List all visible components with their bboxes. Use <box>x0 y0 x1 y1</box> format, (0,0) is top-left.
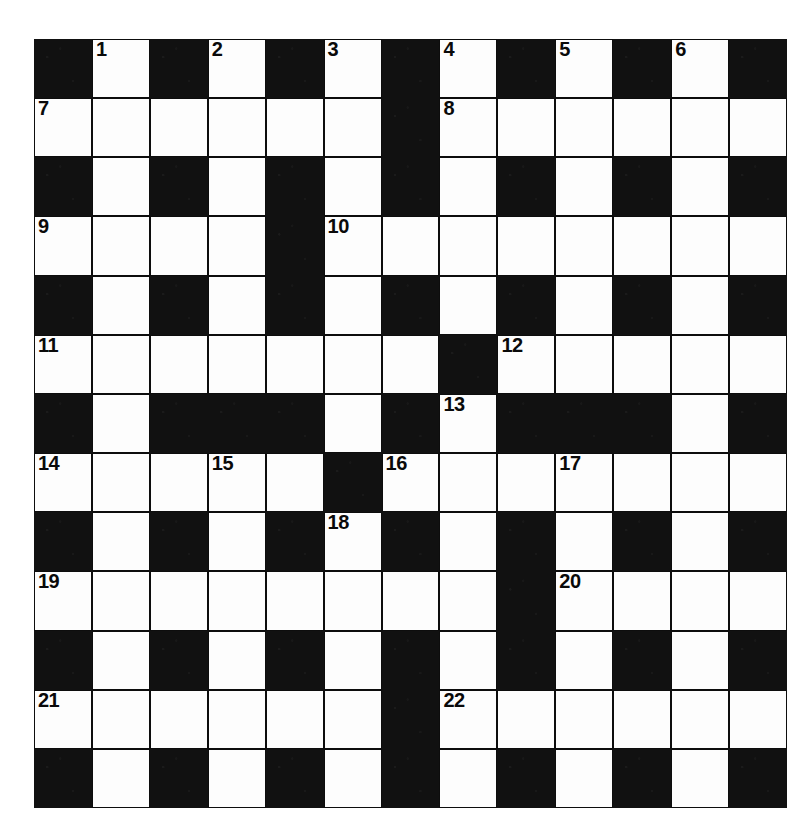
letter-cell[interactable]: 22 <box>439 690 497 749</box>
letter-cell[interactable] <box>671 394 729 453</box>
letter-cell[interactable] <box>439 276 497 335</box>
letter-cell[interactable] <box>729 216 787 275</box>
letter-cell[interactable] <box>92 453 150 512</box>
letter-cell[interactable] <box>92 394 150 453</box>
letter-cell[interactable] <box>613 335 671 394</box>
letter-cell[interactable] <box>555 276 613 335</box>
letter-cell[interactable] <box>671 690 729 749</box>
letter-cell[interactable] <box>439 749 497 808</box>
letter-cell[interactable] <box>555 690 613 749</box>
letter-cell[interactable] <box>324 571 382 630</box>
letter-cell[interactable] <box>555 631 613 690</box>
letter-cell[interactable] <box>382 335 440 394</box>
letter-cell[interactable] <box>671 98 729 157</box>
letter-cell[interactable] <box>555 749 613 808</box>
letter-cell[interactable] <box>439 157 497 216</box>
letter-cell[interactable]: 20 <box>555 571 613 630</box>
letter-cell[interactable] <box>324 276 382 335</box>
letter-cell[interactable] <box>208 335 266 394</box>
letter-cell[interactable] <box>324 631 382 690</box>
letter-cell[interactable]: 18 <box>324 512 382 571</box>
letter-cell[interactable]: 16 <box>382 453 440 512</box>
letter-cell[interactable] <box>555 335 613 394</box>
letter-cell[interactable] <box>208 276 266 335</box>
letter-cell[interactable]: 3 <box>324 39 382 98</box>
letter-cell[interactable] <box>671 335 729 394</box>
letter-cell[interactable]: 5 <box>555 39 613 98</box>
letter-cell[interactable] <box>555 512 613 571</box>
letter-cell[interactable]: 2 <box>208 39 266 98</box>
letter-cell[interactable] <box>208 571 266 630</box>
letter-cell[interactable] <box>92 631 150 690</box>
letter-cell[interactable] <box>324 394 382 453</box>
letter-cell[interactable] <box>266 98 324 157</box>
letter-cell[interactable]: 14 <box>34 453 92 512</box>
letter-cell[interactable] <box>150 216 208 275</box>
letter-cell[interactable]: 9 <box>34 216 92 275</box>
letter-cell[interactable] <box>150 335 208 394</box>
letter-cell[interactable]: 15 <box>208 453 266 512</box>
letter-cell[interactable] <box>208 98 266 157</box>
letter-cell[interactable] <box>613 690 671 749</box>
letter-cell[interactable] <box>497 690 555 749</box>
letter-cell[interactable] <box>613 453 671 512</box>
letter-cell[interactable]: 6 <box>671 39 729 98</box>
letter-cell[interactable] <box>671 216 729 275</box>
letter-cell[interactable] <box>382 216 440 275</box>
letter-cell[interactable] <box>439 631 497 690</box>
letter-cell[interactable]: 10 <box>324 216 382 275</box>
letter-cell[interactable] <box>266 453 324 512</box>
letter-cell[interactable] <box>92 335 150 394</box>
letter-cell[interactable] <box>729 571 787 630</box>
letter-cell[interactable] <box>382 571 440 630</box>
letter-cell[interactable] <box>208 631 266 690</box>
letter-cell[interactable] <box>729 98 787 157</box>
letter-cell[interactable] <box>208 690 266 749</box>
letter-cell[interactable] <box>671 157 729 216</box>
letter-cell[interactable]: 7 <box>34 98 92 157</box>
letter-cell[interactable] <box>729 335 787 394</box>
letter-cell[interactable] <box>92 216 150 275</box>
letter-cell[interactable] <box>729 453 787 512</box>
letter-cell[interactable] <box>324 335 382 394</box>
letter-cell[interactable] <box>439 216 497 275</box>
letter-cell[interactable] <box>555 157 613 216</box>
letter-cell[interactable] <box>92 571 150 630</box>
crossword-grid[interactable]: 12345678910111213141516171819202122 <box>34 39 787 808</box>
letter-cell[interactable]: 21 <box>34 690 92 749</box>
letter-cell[interactable] <box>324 157 382 216</box>
letter-cell[interactable] <box>555 98 613 157</box>
letter-cell[interactable] <box>92 157 150 216</box>
letter-cell[interactable] <box>439 571 497 630</box>
letter-cell[interactable] <box>150 690 208 749</box>
letter-cell[interactable]: 11 <box>34 335 92 394</box>
letter-cell[interactable] <box>208 749 266 808</box>
letter-cell[interactable] <box>671 453 729 512</box>
letter-cell[interactable] <box>671 631 729 690</box>
letter-cell[interactable]: 4 <box>439 39 497 98</box>
letter-cell[interactable]: 1 <box>92 39 150 98</box>
letter-cell[interactable]: 19 <box>34 571 92 630</box>
letter-cell[interactable] <box>324 749 382 808</box>
letter-cell[interactable] <box>613 216 671 275</box>
letter-cell[interactable] <box>324 690 382 749</box>
letter-cell[interactable] <box>671 571 729 630</box>
letter-cell[interactable] <box>613 571 671 630</box>
letter-cell[interactable] <box>208 216 266 275</box>
letter-cell[interactable] <box>613 98 671 157</box>
letter-cell[interactable] <box>497 453 555 512</box>
letter-cell[interactable]: 17 <box>555 453 613 512</box>
letter-cell[interactable] <box>150 571 208 630</box>
letter-cell[interactable] <box>324 98 382 157</box>
letter-cell[interactable] <box>208 157 266 216</box>
letter-cell[interactable] <box>92 690 150 749</box>
letter-cell[interactable] <box>671 749 729 808</box>
letter-cell[interactable] <box>92 98 150 157</box>
letter-cell[interactable] <box>150 453 208 512</box>
letter-cell[interactable] <box>266 690 324 749</box>
letter-cell[interactable] <box>439 453 497 512</box>
letter-cell[interactable] <box>92 512 150 571</box>
letter-cell[interactable] <box>497 216 555 275</box>
letter-cell[interactable]: 8 <box>439 98 497 157</box>
letter-cell[interactable] <box>92 749 150 808</box>
